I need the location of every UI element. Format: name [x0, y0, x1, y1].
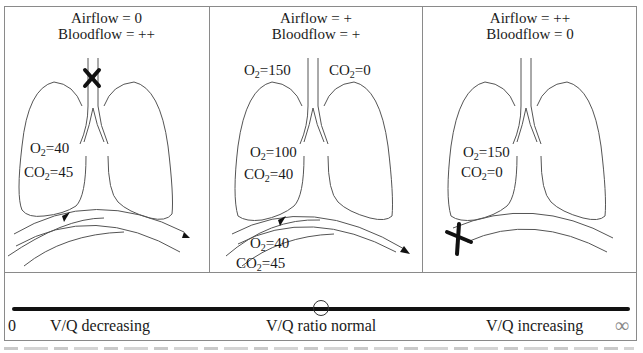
scale-zero-label: 0: [8, 317, 16, 335]
alveolar-o2: O2=150: [463, 144, 510, 160]
alveolar-co2: CO2=0: [461, 164, 503, 180]
vq-increasing-label: V/Q increasing: [486, 317, 583, 335]
lung-diagram: [423, 6, 637, 272]
blood-block-cross-icon: [447, 224, 471, 254]
alveolar-co2: CO2=45: [24, 164, 73, 180]
venous-o2: O2=40: [250, 235, 289, 251]
alveolar-co2: CO2=40: [244, 166, 293, 182]
alveolar-o2: O2=100: [250, 144, 297, 160]
panel-low-vq: Airflow = 0 Bloodflow = ++ O2=40: [4, 6, 209, 272]
inspired-o2: O2=150: [244, 62, 291, 78]
inspired-co2: CO2=0: [329, 62, 371, 78]
panel-normal-vq: Airflow = + Bloodflow = + O2=150 CO2=0 O…: [210, 6, 422, 272]
infinity-icon: ∞: [615, 316, 629, 334]
panel-high-vq: Airflow = ++ Bloodflow = 0 O2=150 CO2=0: [423, 6, 637, 272]
flow-arrow-icon: [182, 232, 190, 238]
vq-scale: 0 V/Q decreasing V/Q ratio normal V/Q in…: [4, 273, 637, 341]
normal-marker-circle-icon: [313, 300, 329, 316]
lung-diagram: [4, 6, 209, 272]
vq-decreasing-label: V/Q decreasing: [50, 317, 150, 335]
alveolar-o2: O2=40: [30, 140, 69, 156]
vq-normal-label: V/Q ratio normal: [266, 317, 376, 335]
figure-caption-cropped: [4, 345, 634, 351]
lung-diagram: [210, 6, 422, 272]
venous-co2: CO2=45: [236, 255, 285, 271]
airway-block-x-icon: [85, 70, 99, 86]
